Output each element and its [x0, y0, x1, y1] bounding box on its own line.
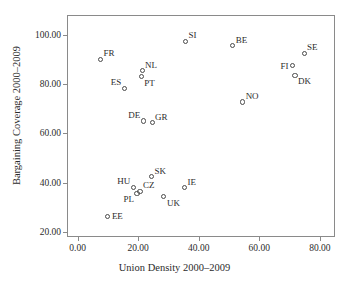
point-label-be: BE — [236, 36, 248, 45]
point-label-pl: PL — [123, 195, 134, 204]
x-tick-mark — [320, 237, 321, 241]
point-label-dk: DK — [298, 77, 311, 86]
scatter-plot-figure: FRSIBESEFINLPTDKESNODEGRSKHUIECZPLUKEE 0… — [0, 0, 349, 284]
x-tick-mark — [199, 237, 200, 241]
x-tick-mark — [78, 237, 79, 241]
x-tick-label: 0.00 — [69, 243, 86, 253]
point-label-se: SE — [307, 43, 318, 52]
point-marker — [292, 73, 297, 78]
y-tick-label: 60.00 — [40, 128, 61, 138]
point-marker — [141, 118, 146, 123]
point-label-cz: CZ — [143, 181, 155, 190]
point-label-fi: FI — [281, 62, 289, 71]
point-marker — [149, 174, 154, 179]
point-label-de: DE — [128, 111, 140, 120]
point-label-sk: SK — [154, 167, 166, 176]
point-marker — [139, 74, 144, 79]
x-axis-title: Union Density 2000–2009 — [0, 262, 349, 273]
x-tick-label: 60.00 — [249, 243, 270, 253]
point-marker — [182, 185, 187, 190]
y-tick-mark — [63, 35, 67, 36]
x-tick-mark — [259, 237, 260, 241]
point-label-si: SI — [188, 31, 196, 40]
point-label-gr: GR — [155, 113, 168, 122]
point-marker — [161, 194, 166, 199]
point-label-uk: UK — [167, 199, 180, 208]
point-label-pt: PT — [144, 79, 155, 88]
y-tick-label: 100.00 — [35, 30, 61, 40]
y-tick-label: 40.00 — [40, 178, 61, 188]
y-tick-mark — [63, 133, 67, 134]
point-label-fr: FR — [104, 49, 115, 58]
y-tick-mark — [63, 183, 67, 184]
point-marker — [122, 86, 127, 91]
y-tick-mark — [63, 84, 67, 85]
point-label-ie: IE — [187, 178, 196, 187]
point-marker — [105, 214, 110, 219]
point-marker — [134, 191, 139, 196]
point-marker — [230, 43, 235, 48]
y-tick-mark — [63, 232, 67, 233]
y-tick-label: 20.00 — [40, 227, 61, 237]
point-marker — [131, 185, 136, 190]
point-marker — [98, 57, 103, 62]
x-tick-label: 40.00 — [188, 243, 209, 253]
data-points-layer: FRSIBESEFINLPTDKESNODEGRSKHUIECZPLUKEE — [67, 15, 335, 237]
point-marker — [150, 120, 155, 125]
x-tick-mark — [138, 237, 139, 241]
point-marker — [302, 51, 307, 56]
y-axis-title: Bargaining Coverage 2000–2009 — [11, 11, 22, 221]
y-tick-label: 80.00 — [40, 79, 61, 89]
point-label-es: ES — [111, 78, 122, 87]
point-marker — [140, 68, 145, 73]
x-tick-label: 20.00 — [127, 243, 148, 253]
point-label-no: NO — [246, 92, 259, 101]
point-marker — [290, 63, 295, 68]
point-marker — [183, 39, 188, 44]
point-label-nl: NL — [145, 61, 157, 70]
point-label-hu: HU — [117, 177, 130, 186]
point-marker — [240, 99, 245, 104]
x-tick-label: 80.00 — [309, 243, 330, 253]
point-label-ee: EE — [112, 212, 123, 221]
